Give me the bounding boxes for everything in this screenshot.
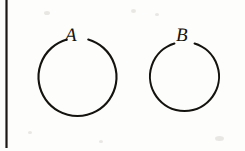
- diagram-canvas: [0, 0, 245, 151]
- figure-background: [0, 0, 245, 151]
- figure-container: A B: [0, 0, 245, 151]
- circle-b-label: B: [176, 26, 188, 45]
- circle-a-label: A: [65, 26, 77, 45]
